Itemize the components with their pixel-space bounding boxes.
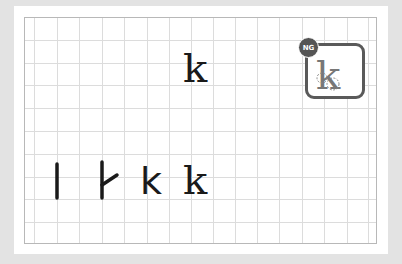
svg-text:k: k: [316, 52, 341, 98]
ng-badge: NG: [298, 37, 319, 58]
stroke-step-2: [95, 158, 125, 202]
stroke-step-1: [50, 158, 70, 202]
stroke-step-4: k: [183, 160, 207, 200]
stroke-step-3: k: [140, 162, 162, 200]
model-letter: k: [183, 48, 207, 88]
